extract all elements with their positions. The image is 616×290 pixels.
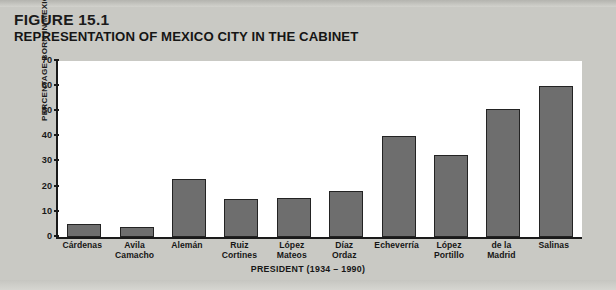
y-axis-tick-10: 10 (28, 207, 52, 216)
y-axis-tick-0: 0 (28, 232, 52, 241)
x-axis-category-label-line: Camacho (108, 251, 160, 261)
bar (434, 155, 468, 237)
x-axis-category-label: DíazOrdaz (318, 241, 370, 260)
chart-plot-area: PERCENTAGE BORN IN MEXICO CITY 70 60 50 … (56, 61, 582, 239)
x-axis-category-label: AvilaCamacho (108, 241, 160, 260)
y-axis-tick-30: 30 (28, 156, 52, 165)
y-axis-tick-20: 20 (28, 182, 52, 191)
x-axis-category-label-line: Portillo (423, 251, 475, 261)
figure-number: FIGURE 15.1 (14, 12, 574, 28)
y-tick-label: 60 (42, 80, 52, 90)
x-axis-category-label: Salinas (528, 241, 580, 251)
x-axis-labels: CárdenasAvilaCamachoAlemánRuizCortinesLó… (56, 241, 580, 265)
x-axis-category-label-line: Alemán (161, 241, 213, 251)
x-axis-category-label: Alemán (161, 241, 213, 251)
bar (67, 224, 101, 237)
y-tick-label: 40 (42, 130, 52, 140)
y-tick-label: 20 (42, 181, 52, 191)
x-axis-category-label-line: Madrid (475, 251, 527, 261)
y-axis-tick-60: 60 (28, 81, 52, 90)
figure-container: FIGURE 15.1 REPRESENTATION OF MEXICO CIT… (0, 0, 616, 290)
x-axis-category-label: Echeverría (370, 241, 422, 251)
y-axis-tick-50: 50 (28, 106, 52, 115)
bar (224, 199, 258, 237)
bar (277, 198, 311, 237)
bar (539, 86, 573, 237)
x-axis-category-label: LópezPortillo (423, 241, 475, 260)
y-tick-label: 10 (42, 206, 52, 216)
figure-title-block: FIGURE 15.1 REPRESENTATION OF MEXICO CIT… (14, 12, 574, 44)
x-axis-title: PRESIDENT (1934 – 1990) (0, 264, 616, 274)
bar (172, 179, 206, 237)
x-axis-category-label-line: Echeverría (370, 241, 422, 251)
bar (382, 136, 416, 237)
x-axis-category-label-line: Cárdenas (56, 241, 108, 251)
bar (120, 227, 154, 237)
y-tick-label: 0 (47, 231, 52, 241)
x-axis-category-label: de laMadrid (475, 241, 527, 260)
x-axis-category-label: LópezMateos (266, 241, 318, 260)
x-axis-category-label-line: Salinas (528, 241, 580, 251)
page-title: REPRESENTATION OF MEXICO CITY IN THE CAB… (14, 29, 574, 44)
x-axis-category-label-line: Mateos (266, 251, 318, 261)
bar-series (58, 61, 582, 237)
y-tick-label: 70 (42, 55, 52, 65)
y-axis-tick-40: 40 (28, 131, 52, 140)
bar (329, 191, 363, 238)
x-axis-category-label: RuizCortines (213, 241, 265, 260)
x-axis-category-label-line: Cortines (213, 251, 265, 261)
x-axis-category-label: Cárdenas (56, 241, 108, 251)
bar (486, 109, 520, 237)
y-axis-tick-70: 70 (28, 56, 52, 65)
x-axis-category-label-line: Ordaz (318, 251, 370, 261)
figure-number-text: FIGURE 15.1 (14, 11, 109, 28)
y-tick-label: 50 (42, 105, 52, 115)
y-tick-label: 30 (42, 155, 52, 165)
